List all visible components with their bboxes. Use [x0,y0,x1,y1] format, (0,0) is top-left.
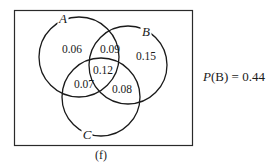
set-label-b: B [142,24,150,39]
region-ab: 0.09 [100,43,120,55]
set-label-a: A [58,11,67,26]
probability-symbol: P [203,69,211,84]
region-ac: 0.07 [74,78,94,90]
probability-annotation: P(B) = 0.44 [203,69,265,85]
region-abc: 0.12 [93,64,113,76]
sample-space-frame [15,11,193,146]
probability-value: = 0.44 [228,69,265,84]
set-label-c: C [83,127,92,142]
figure-caption: (f) [95,148,107,163]
probability-argument: (B) [211,69,228,84]
region-bc: 0.08 [112,83,132,95]
region-a-only: 0.06 [62,43,82,55]
region-b-only: 0.15 [136,50,156,62]
